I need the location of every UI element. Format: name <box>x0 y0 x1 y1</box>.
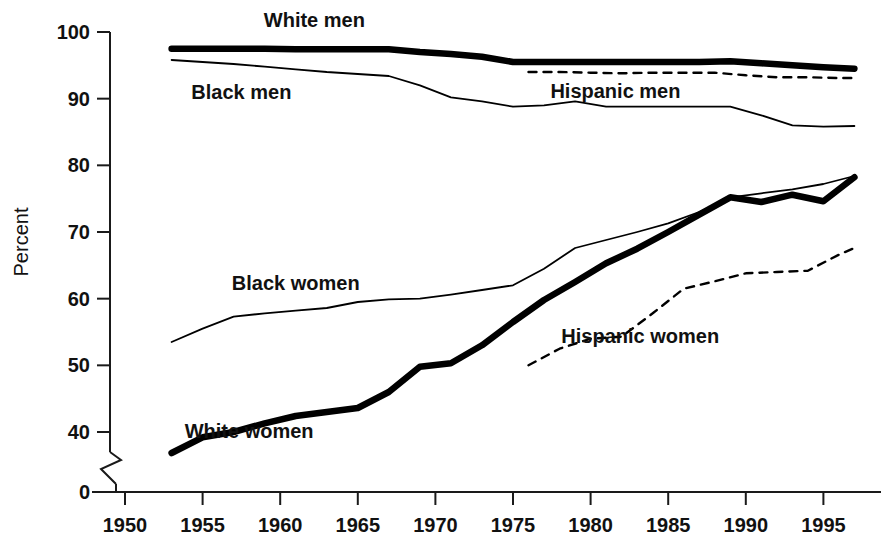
x-tick-label-1960: 1960 <box>258 514 303 536</box>
y-axis-title: Percent <box>10 207 32 276</box>
series-label-hispanic-men: Hispanic men <box>550 80 680 102</box>
series-line-white-men <box>172 49 855 69</box>
x-tick-label-1970: 1970 <box>413 514 458 536</box>
y-tick-label-100: 100 <box>57 21 90 43</box>
x-tick-label-1990: 1990 <box>724 514 769 536</box>
x-tick-label-1965: 1965 <box>336 514 381 536</box>
series-lines <box>172 49 855 453</box>
axis-titles: Percent <box>10 207 32 276</box>
x-tick-label-1985: 1985 <box>646 514 691 536</box>
y-axis-break-zigzag <box>101 452 121 484</box>
series-line-hispanic-women <box>529 248 855 365</box>
series-line-hispanic-men <box>529 72 855 78</box>
x-tick-label-1955: 1955 <box>180 514 225 536</box>
x-tick-label-1995: 1995 <box>801 514 846 536</box>
line-chart: 0405060708090100195019551960196519701975… <box>0 0 881 553</box>
series-label-black-men: Black men <box>191 81 291 103</box>
x-tick-label-1950: 1950 <box>103 514 148 536</box>
y-tick-label-70: 70 <box>68 221 90 243</box>
x-tick-label-1975: 1975 <box>491 514 536 536</box>
y-tick-label-50: 50 <box>68 354 90 376</box>
y-tick-label-0: 0 <box>79 481 90 503</box>
tick-labels: 0405060708090100195019551960196519701975… <box>57 21 846 536</box>
x-tick-label-1980: 1980 <box>568 514 613 536</box>
series-label-white-men: White men <box>264 9 365 31</box>
y-tick-label-90: 90 <box>68 88 90 110</box>
series-label-hispanic-women: Hispanic women <box>561 325 719 347</box>
y-tick-label-80: 80 <box>68 154 90 176</box>
series-label-white-women: White women <box>185 420 314 442</box>
y-tick-label-40: 40 <box>68 421 90 443</box>
chart-container: 0405060708090100195019551960196519701975… <box>0 0 881 553</box>
y-tick-label-60: 60 <box>68 288 90 310</box>
series-line-white-women <box>172 177 855 453</box>
series-label-black-women: Black women <box>232 272 360 294</box>
